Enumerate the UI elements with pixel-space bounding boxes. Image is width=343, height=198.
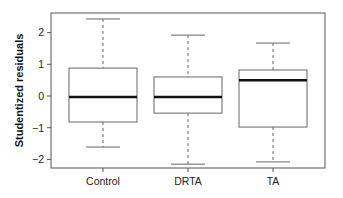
box-ta bbox=[239, 43, 307, 162]
y-tick-label: −2 bbox=[32, 153, 44, 165]
y-tick-label: 2 bbox=[38, 26, 44, 38]
boxplot-chart: −2−1012 ControlDRTATA Studentized residu… bbox=[0, 0, 343, 198]
x-axis: ControlDRTATA bbox=[86, 168, 279, 187]
boxes bbox=[69, 19, 307, 164]
x-tick-label-ta: TA bbox=[267, 175, 280, 187]
x-tick-label-control: Control bbox=[86, 175, 120, 187]
box-control bbox=[69, 19, 137, 147]
x-tick-label-drta: DRTA bbox=[174, 175, 202, 187]
iqr-box bbox=[154, 77, 222, 113]
box-drta bbox=[154, 35, 222, 164]
y-tick-label: −1 bbox=[32, 122, 44, 134]
y-tick-label: 0 bbox=[38, 90, 44, 102]
y-axis-label: Studentized residuals bbox=[13, 34, 25, 148]
iqr-box bbox=[239, 70, 307, 127]
iqr-box bbox=[69, 68, 137, 122]
y-axis: −2−1012 bbox=[32, 26, 51, 165]
y-tick-label: 1 bbox=[38, 58, 44, 70]
